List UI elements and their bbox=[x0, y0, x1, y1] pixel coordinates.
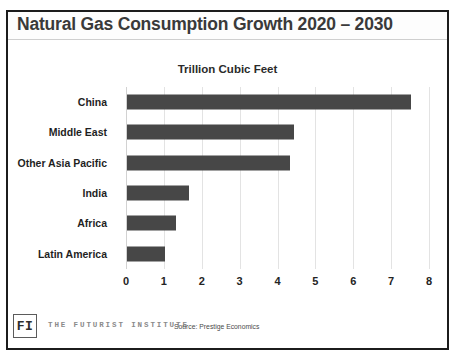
source-note: Source: Prestige Economics bbox=[174, 323, 259, 330]
chart-panel: Trillion Cubic Feet ChinaMiddle EastOthe… bbox=[8, 41, 447, 313]
chart-row: India bbox=[8, 178, 447, 208]
x-axis-tick-label: 5 bbox=[312, 275, 318, 287]
x-axis-tick-label: 2 bbox=[199, 275, 205, 287]
chart-row: Latin America bbox=[8, 239, 447, 269]
x-axis-tick-label: 7 bbox=[388, 275, 394, 287]
chart-row: Africa bbox=[8, 208, 447, 238]
chart-row: Middle East bbox=[8, 117, 447, 147]
x-axis-tick-label: 3 bbox=[237, 275, 243, 287]
chart-row: China bbox=[8, 87, 447, 117]
x-axis-tick-label: 8 bbox=[426, 275, 432, 287]
chart-title: Trillion Cubic Feet bbox=[8, 63, 447, 75]
slide-title-band: Natural Gas Consumption Growth 2020 – 20… bbox=[8, 12, 447, 40]
category-label: India bbox=[0, 187, 107, 199]
x-axis-tick-label: 0 bbox=[123, 275, 129, 287]
futurist-institute-logo: FI bbox=[13, 314, 37, 338]
bar-chart-plot: ChinaMiddle EastOther Asia PacificIndiaA… bbox=[8, 87, 447, 313]
bar bbox=[127, 186, 189, 201]
category-label: Middle East bbox=[0, 126, 107, 138]
x-axis-tick-label: 4 bbox=[274, 275, 280, 287]
bar bbox=[127, 155, 290, 170]
chart-row: Other Asia Pacific bbox=[8, 148, 447, 178]
category-label: Other Asia Pacific bbox=[0, 157, 107, 169]
bar bbox=[127, 95, 411, 110]
x-axis-tick-label: 1 bbox=[161, 275, 167, 287]
bar bbox=[127, 246, 165, 261]
institute-name-label: THE FUTURIST INSTITUTE bbox=[48, 321, 189, 329]
category-label: Latin America bbox=[0, 248, 107, 260]
slide-footer: FI THE FUTURIST INSTITUTE Source: Presti… bbox=[8, 310, 447, 348]
category-label: Africa bbox=[0, 217, 107, 229]
x-axis-tick-label: 6 bbox=[350, 275, 356, 287]
scan-artifact bbox=[40, 0, 50, 7]
bar bbox=[127, 216, 176, 231]
bar bbox=[127, 125, 294, 140]
slide-frame: Natural Gas Consumption Growth 2020 – 20… bbox=[6, 10, 449, 350]
category-label: China bbox=[0, 96, 107, 108]
page-title: Natural Gas Consumption Growth 2020 – 20… bbox=[17, 14, 393, 35]
chart-bars: ChinaMiddle EastOther Asia PacificIndiaA… bbox=[8, 87, 447, 269]
